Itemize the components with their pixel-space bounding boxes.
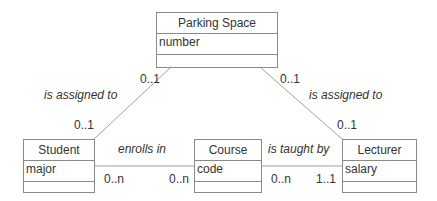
class-course[interactable]: Course code	[194, 139, 262, 193]
multiplicity-label: 0..n	[104, 172, 124, 186]
class-operations	[195, 182, 261, 194]
class-parking-space[interactable]: Parking Space number	[156, 12, 278, 68]
class-name: Course	[195, 140, 261, 161]
class-operations	[157, 55, 277, 67]
assoc-lecturer-parking-line	[261, 68, 342, 139]
assoc-label: is assigned to	[44, 88, 117, 102]
multiplicity-label: 1..1	[316, 172, 336, 186]
class-operations	[343, 182, 416, 194]
class-lecturer[interactable]: Lecturer salary	[342, 139, 417, 193]
assoc-label: is assigned to	[309, 88, 382, 102]
class-name: Student	[24, 140, 94, 161]
multiplicity-label: 0..1	[74, 118, 94, 132]
assoc-label: enrolls in	[118, 142, 166, 156]
class-name: Lecturer	[343, 140, 416, 161]
multiplicity-label: 0..1	[280, 72, 300, 86]
class-attribute: number	[157, 34, 277, 55]
class-attribute: major	[24, 161, 94, 182]
class-attribute: code	[195, 161, 261, 182]
multiplicity-label: 0..1	[140, 72, 160, 86]
class-name: Parking Space	[157, 13, 277, 34]
class-attribute: salary	[343, 161, 416, 182]
assoc-label: is taught by	[268, 142, 329, 156]
multiplicity-label: 0..n	[271, 172, 291, 186]
multiplicity-label: 0..n	[169, 172, 189, 186]
class-operations	[24, 182, 94, 194]
multiplicity-label: 0..1	[337, 118, 357, 132]
class-student[interactable]: Student major	[23, 139, 95, 193]
